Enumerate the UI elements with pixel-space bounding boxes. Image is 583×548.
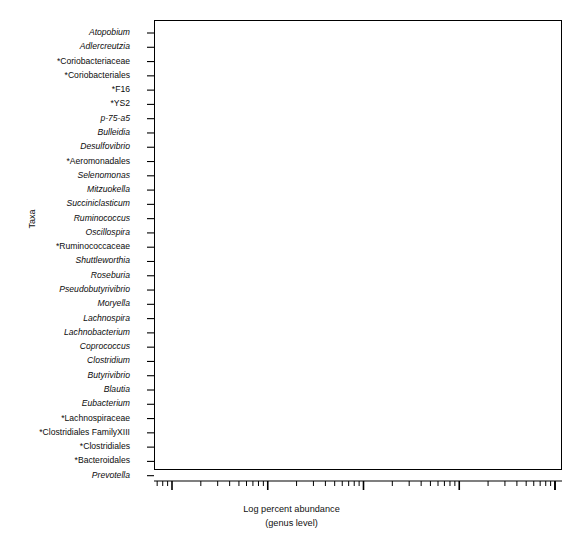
x-axis-title-line1: Log percent abundance bbox=[0, 504, 583, 514]
taxon-label: Eubacterium bbox=[82, 399, 130, 408]
taxon-label: *YS2 bbox=[110, 99, 130, 108]
taxon-label: Lachnobacterium bbox=[64, 328, 130, 337]
taxon-label: Selenomonas bbox=[77, 171, 130, 180]
taxon-label: *Ruminococcaceae bbox=[56, 242, 130, 251]
taxon-label: Moryella bbox=[98, 299, 130, 308]
taxon-label: *Clostridiales bbox=[80, 442, 130, 451]
taxon-label: Blautia bbox=[104, 385, 130, 394]
taxon-label: Mitzuokella bbox=[87, 185, 130, 194]
taxon-label: *Aeromonadales bbox=[66, 157, 130, 166]
taxon-label: Oscillospira bbox=[86, 228, 130, 237]
taxon-label: Prevotella bbox=[92, 471, 130, 480]
plot-area bbox=[154, 20, 562, 470]
taxon-label: Clostridium bbox=[87, 356, 130, 365]
taxon-label: Coprococcus bbox=[80, 342, 130, 351]
boxplot-figure: Taxa AtopobiumAdlercreutzia*Coriobacteri… bbox=[0, 0, 583, 548]
taxon-label: Shuttleworthia bbox=[76, 256, 130, 265]
taxon-label: *Coriobacteriaceae bbox=[57, 57, 130, 66]
x-axis-title-line2: (genus level) bbox=[0, 518, 583, 528]
taxon-label: Bulleidia bbox=[98, 128, 131, 137]
boxplot-series bbox=[155, 21, 563, 471]
y-axis-tick-labels: AtopobiumAdlercreutzia*Coriobacteriaceae… bbox=[0, 0, 146, 548]
taxon-label: *Bacteroidales bbox=[75, 456, 130, 465]
taxon-label: Roseburia bbox=[91, 271, 130, 280]
taxon-label: Succiniclasticum bbox=[66, 199, 130, 208]
taxon-label: *Lachnospiraceae bbox=[61, 414, 130, 423]
taxon-label: Lachnospira bbox=[83, 314, 130, 323]
taxon-label: Butyrivibrio bbox=[87, 371, 130, 380]
taxon-label: Adlercreutzia bbox=[80, 42, 130, 51]
taxon-label: *F16 bbox=[112, 85, 130, 94]
taxon-label: Desulfovibrio bbox=[80, 142, 130, 151]
taxon-label: p-75-a5 bbox=[100, 114, 130, 123]
taxon-label: *Clostridiales FamilyXIII bbox=[39, 428, 130, 437]
taxon-label: Atopobium bbox=[89, 28, 130, 37]
taxon-label: *Coriobacteriales bbox=[65, 71, 130, 80]
taxon-label: Ruminococcus bbox=[74, 214, 130, 223]
taxon-label: Pseudobutyrivibrio bbox=[59, 285, 130, 294]
